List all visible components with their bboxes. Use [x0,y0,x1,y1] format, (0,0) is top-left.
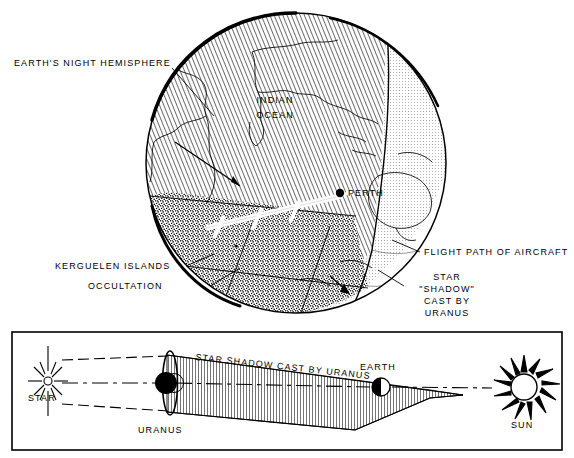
earth-symbol [372,378,390,396]
label-star-shadow-line1: STAR [404,272,490,283]
label-sun: SUN [511,420,533,431]
label-star-shadow-line4: URANUS [404,308,490,319]
sun-disc [511,374,537,400]
label-earth: EARTH [360,362,396,373]
occultation-figure: EARTH'S NIGHT HEMISPHERE INDIAN OCEAN PE… [0,0,574,458]
label-star-shadow-line2: "SHADOW" [404,284,490,295]
label-flight-path-of-aircraft: FLIGHT PATH OF AIRCRAFT [424,247,568,258]
label-star: STAR [28,393,56,404]
label-indian-ocean-line1: INDIAN [243,95,307,106]
label-star-shadow-line3: CAST BY [404,296,490,307]
uranus-disc [155,372,177,394]
label-indian-ocean-line2: OCEAN [243,110,307,121]
perth-marker [336,189,344,197]
label-earths-night-hemisphere: EARTH'S NIGHT HEMISPHERE [14,58,171,69]
kerguelen-marker [234,244,237,247]
label-kerguelen-islands: KERGUELEN ISLANDS [55,261,170,272]
label-uranus: URANUS [138,425,183,436]
label-perth: PERTH [348,188,384,199]
label-occultation: OCCULTATION [88,281,163,292]
lower-panel-group [12,332,562,450]
